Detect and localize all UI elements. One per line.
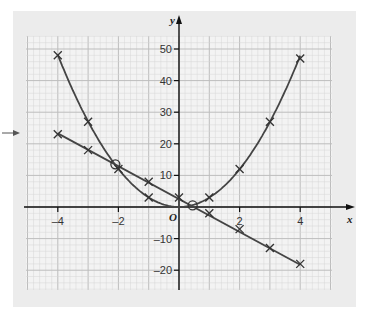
x-axis-label: x <box>346 213 353 225</box>
y-tick-label: –10 <box>154 233 172 245</box>
y-axis-label: y <box>168 14 175 26</box>
y-tick-label: –20 <box>154 264 172 276</box>
pointer-arrow-icon <box>2 130 20 136</box>
y-tick-label: 30 <box>160 106 172 118</box>
y-tick-label: 40 <box>160 75 172 87</box>
y-tick-label: 20 <box>160 138 172 150</box>
x-tick-label: 2 <box>237 215 243 227</box>
x-tick-label: –4 <box>52 215 64 227</box>
origin-label: O <box>169 211 177 223</box>
x-axis-arrow-icon <box>346 204 355 210</box>
y-axis-arrow-icon <box>176 15 182 24</box>
x-tick-label: –2 <box>112 215 124 227</box>
y-tick-label: 50 <box>160 43 172 55</box>
chart: –4–2245040302010–10–20Oxy <box>0 0 374 312</box>
x-tick-label: 4 <box>297 215 303 227</box>
y-tick-label: 10 <box>160 169 172 181</box>
